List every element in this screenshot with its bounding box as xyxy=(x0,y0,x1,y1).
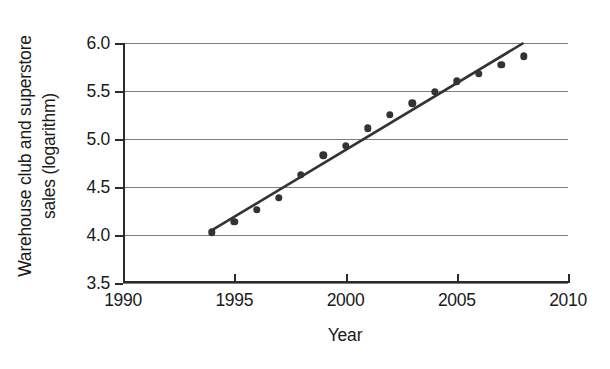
y-tick xyxy=(115,283,123,285)
y-tick-label: 5.0 xyxy=(87,129,110,150)
data-point xyxy=(453,78,460,85)
data-point xyxy=(297,171,304,178)
data-point xyxy=(364,125,371,132)
data-point xyxy=(253,206,260,213)
chart-figure: Warehouse club and superstore sales (log… xyxy=(0,0,610,369)
y-tick xyxy=(115,43,123,45)
data-point xyxy=(275,194,282,201)
data-point xyxy=(320,152,327,159)
x-tick-label: 1990 xyxy=(104,290,142,311)
x-tick-label: 2010 xyxy=(549,290,587,311)
data-point xyxy=(431,88,438,95)
x-tick xyxy=(568,274,570,283)
y-tick-label: 4.0 xyxy=(87,225,110,246)
data-point xyxy=(475,70,482,77)
x-tick-label: 2005 xyxy=(438,290,476,311)
y-tick-label: 6.0 xyxy=(87,33,110,54)
y-tick-label: 5.5 xyxy=(87,81,110,102)
y-tick xyxy=(115,139,123,141)
x-axis-title: Year xyxy=(245,325,445,346)
x-tick-label: 2000 xyxy=(327,290,365,311)
data-point xyxy=(231,218,238,225)
data-points xyxy=(123,43,568,283)
data-point xyxy=(498,61,505,68)
y-tick xyxy=(115,91,123,93)
data-point xyxy=(520,53,527,60)
gridline xyxy=(123,283,568,284)
data-point xyxy=(208,228,215,235)
x-tick-label: 1995 xyxy=(215,290,253,311)
data-point xyxy=(342,142,349,149)
y-tick xyxy=(115,235,123,237)
y-axis-title: Warehouse club and superstore sales (log… xyxy=(9,6,65,306)
data-point xyxy=(409,100,416,107)
y-tick xyxy=(115,187,123,189)
y-tick-label: 4.5 xyxy=(87,177,110,198)
plot-area: 3.54.04.55.05.56.0 19901995200020052010 xyxy=(123,43,568,283)
data-point xyxy=(386,111,393,118)
